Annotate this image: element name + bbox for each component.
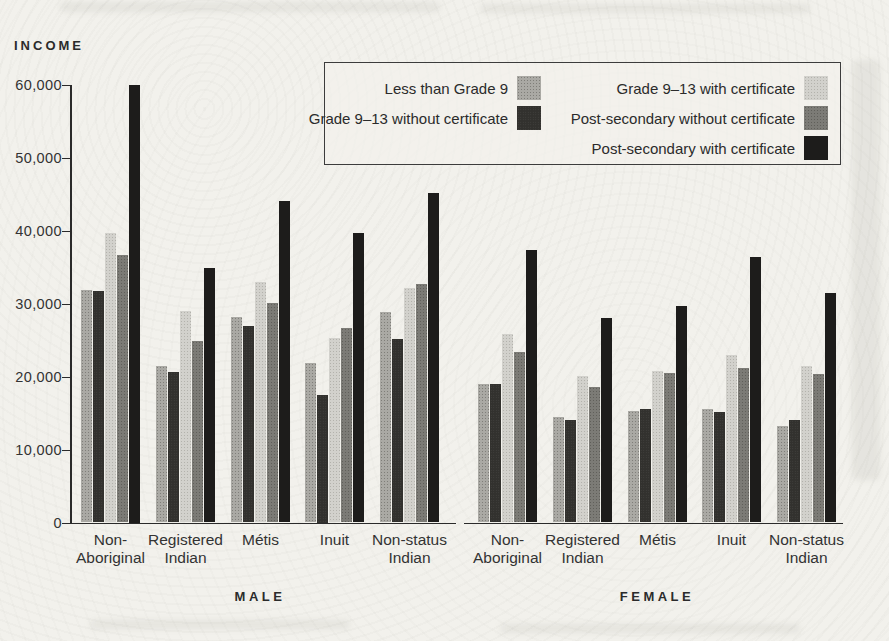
bar-female-0-series-4: [526, 250, 537, 522]
scan-artifact: [480, 4, 810, 13]
legend-label: Grade 9–13 with certificate: [617, 80, 795, 97]
bar-female-4-series-4: [825, 293, 836, 523]
bar-male-4-series-0: [380, 312, 391, 522]
y-tick-label: 40,000: [8, 223, 62, 239]
bar-female-2-series-3: [664, 373, 675, 523]
y-tick-mark: [62, 85, 71, 87]
section-label-male: MALE: [185, 589, 335, 604]
bar-female-4-series-2: [801, 366, 812, 522]
bar-female-3-series-2: [726, 355, 737, 522]
bar-female-2-series-2: [652, 371, 663, 523]
legend-swatch: [804, 76, 828, 100]
bar-female-0-series-1: [490, 384, 501, 523]
bar-male-2-series-3: [267, 303, 278, 523]
bar-female-1-series-3: [589, 387, 600, 523]
bar-male-3-series-3: [341, 328, 352, 523]
x-axis-baseline-female: [464, 523, 843, 525]
bar-male-4-series-3: [416, 284, 427, 523]
bar-female-1-series-0: [553, 417, 564, 522]
legend: Less than Grade 9Grade 9–13 without cert…: [324, 62, 841, 165]
bar-female-3-series-0: [702, 409, 713, 523]
bar-male-0-series-3: [117, 255, 128, 523]
legend-swatch: [804, 106, 828, 130]
y-tick-mark: [62, 304, 71, 306]
bar-female-2-series-4: [676, 306, 687, 523]
y-tick-label: 60,000: [8, 77, 62, 93]
y-tick-mark: [62, 450, 71, 452]
legend-item: Post-secondary with certificate: [325, 133, 828, 163]
bar-female-4-series-3: [813, 374, 824, 523]
y-axis-title: INCOME: [14, 38, 84, 53]
bar-male-1-series-3: [192, 341, 203, 522]
bar-male-0-series-0: [81, 290, 92, 522]
bar-female-2-series-1: [640, 409, 651, 522]
legend-label: Post-secondary with certificate: [592, 140, 795, 157]
scan-artifact: [852, 60, 880, 480]
bar-female-1-series-2: [577, 376, 588, 523]
bar-female-1-series-4: [601, 318, 612, 522]
y-tick-label: 50,000: [8, 150, 62, 166]
bar-male-2-series-0: [231, 317, 242, 523]
bar-male-1-series-2: [180, 311, 191, 523]
y-tick-mark: [62, 377, 71, 379]
bar-male-3-series-1: [317, 395, 328, 523]
bar-male-0-series-4: [129, 85, 140, 523]
bar-male-1-series-0: [156, 366, 167, 522]
legend-item: Grade 9–13 with certificate: [325, 73, 828, 103]
bar-female-3-series-3: [738, 368, 749, 523]
section-label-female: FEMALE: [582, 589, 732, 604]
bar-male-4-series-4: [428, 193, 439, 522]
bar-male-1-series-1: [168, 372, 179, 522]
legend-item: Post-secondary without certificate: [325, 103, 828, 133]
bar-male-0-series-2: [105, 233, 116, 522]
bar-female-3-series-1: [714, 412, 725, 522]
bar-male-4-series-1: [392, 339, 403, 523]
y-tick-label: 10,000: [8, 442, 62, 458]
bar-male-3-series-4: [353, 233, 364, 523]
bar-male-2-series-1: [243, 326, 254, 522]
bar-female-4-series-1: [789, 420, 800, 522]
scan-artifact: [500, 624, 800, 633]
scanned-page: INCOME 010,00020,00030,00040,00050,00060…: [0, 0, 889, 641]
bar-female-3-series-4: [750, 257, 761, 523]
bar-male-2-series-2: [255, 282, 266, 522]
bar-male-1-series-4: [204, 268, 215, 522]
scan-artifact: [60, 2, 440, 12]
y-tick-mark: [62, 231, 71, 233]
bar-male-4-series-2: [404, 288, 415, 522]
bar-female-2-series-0: [628, 411, 639, 523]
bar-male-2-series-4: [279, 201, 290, 522]
legend-label: Post-secondary without certificate: [571, 110, 795, 127]
legend-swatch: [804, 136, 828, 160]
y-tick-label: 20,000: [8, 369, 62, 385]
y-tick-mark: [62, 523, 71, 525]
bar-male-3-series-2: [329, 338, 340, 523]
scan-artifact: [90, 620, 350, 629]
y-tick-label: 30,000: [8, 296, 62, 312]
y-tick-mark: [62, 158, 71, 160]
x-group-label: Non-statusIndian: [745, 531, 869, 566]
bar-female-1-series-1: [565, 420, 576, 522]
bar-female-4-series-0: [777, 426, 788, 522]
bar-male-0-series-1: [93, 291, 104, 522]
y-tick-label: 0: [8, 515, 62, 531]
bar-male-3-series-0: [305, 363, 316, 523]
bar-female-0-series-0: [478, 384, 489, 523]
bar-female-0-series-3: [514, 352, 525, 522]
bar-female-0-series-2: [502, 334, 513, 522]
x-axis-baseline-male: [71, 523, 456, 525]
